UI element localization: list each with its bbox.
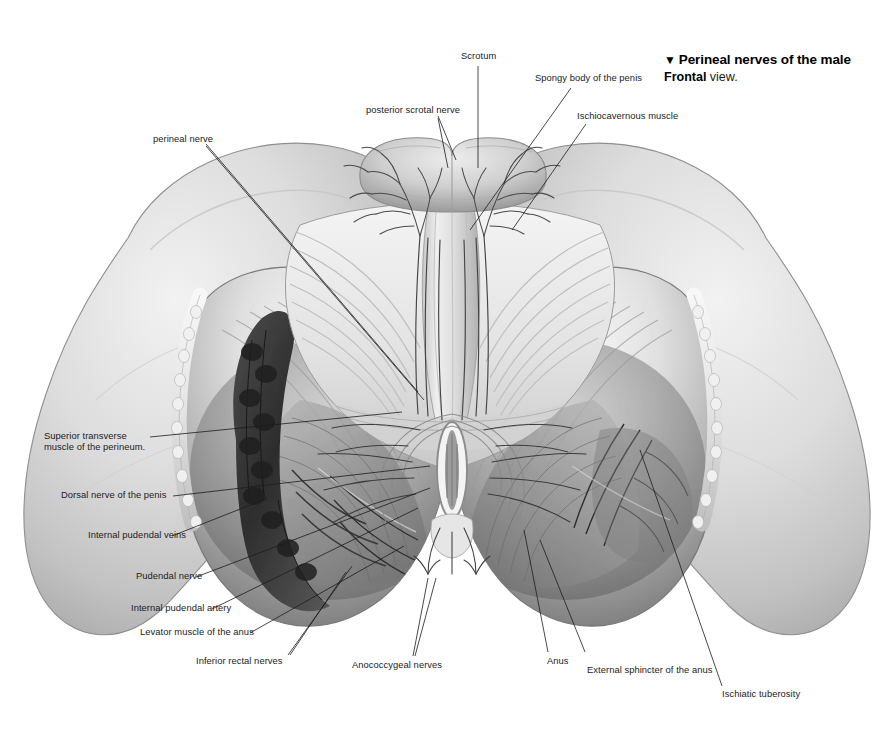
label-inferior-rectal-nerves: Inferior rectal nerves xyxy=(196,655,283,666)
label-levator-muscle-of-the-anus: Levator muscle of the anus xyxy=(140,626,254,637)
plate-view-suffix: view. xyxy=(706,70,737,84)
label-dorsal-nerve-of-the-penis: Dorsal nerve of the penis xyxy=(61,489,166,500)
label-perineal-nerve: perineal nerve xyxy=(153,133,213,144)
label-anococcygeal-nerves: Anococcygeal nerves xyxy=(352,659,442,670)
label-anus: Anus xyxy=(547,655,569,666)
label-pudendal-nerve: Pudendal nerve xyxy=(136,570,202,581)
label-external-sphincter-of-the-anus: External sphincter of the anus xyxy=(587,664,713,675)
plate-title-block: ▼Perineal nerves of the male Frontal vie… xyxy=(664,52,888,86)
label-ischiocavernous-muscle: Ischiocavernous muscle xyxy=(577,110,678,121)
label-posterior-scrotal-nerve: posterior scrotal nerve xyxy=(366,104,460,115)
anatomy-plate: ▼Perineal nerves of the male Frontal vie… xyxy=(0,0,894,734)
plate-view-line: Frontal view. xyxy=(664,70,888,86)
plate-title: ▼Perineal nerves of the male xyxy=(664,52,888,69)
label-internal-pudendal-veins: Internal pudendal veins xyxy=(88,529,186,540)
label-ischiatic-tuberosity: Ischiatic tuberosity xyxy=(722,688,800,699)
label-spongy-body-of-the-penis: Spongy body of the penis xyxy=(535,72,642,83)
triangle-down-icon: ▼ xyxy=(664,53,676,67)
label-scrotum: Scrotum xyxy=(461,50,496,61)
plate-view-label: Frontal xyxy=(664,70,706,84)
label-superior-transverse-muscle-of-the-perineum: Superior transverse muscle of the perine… xyxy=(44,430,156,453)
plate-title-text: Perineal nerves of the male xyxy=(679,52,851,67)
label-internal-pudendal-artery: Internal pudendal artery xyxy=(131,602,231,613)
